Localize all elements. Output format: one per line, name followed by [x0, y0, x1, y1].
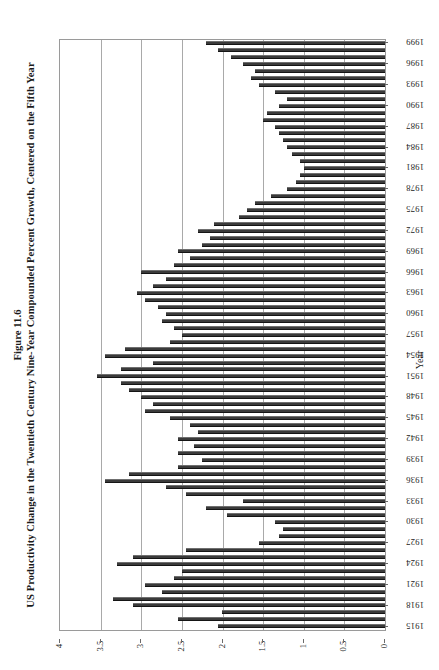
category-tick-mark [385, 251, 388, 252]
category-tick: 1972 [388, 225, 424, 235]
bar [121, 367, 385, 371]
category-tick: 1990 [388, 100, 424, 110]
category-tick: 1963 [388, 287, 424, 297]
category-tick: 1915 [388, 621, 424, 631]
bar [271, 194, 385, 198]
category-tick-label: 1969 [388, 246, 424, 256]
value-tick-mark [343, 639, 344, 643]
category-tick-mark [385, 459, 388, 460]
value-tick: 1.5 [250, 639, 274, 653]
bar [247, 208, 385, 212]
figure-title-rotated: Figure 11.6 US Productivity Change in th… [0, 0, 48, 670]
bar [178, 249, 385, 253]
category-tick-mark [385, 542, 388, 543]
category-tick: 1918 [388, 600, 424, 610]
category-tick: 1999 [388, 37, 424, 47]
bar [283, 138, 385, 142]
category-tick-mark [385, 480, 388, 481]
value-tick-label: 2.5 [174, 634, 188, 658]
bar [279, 131, 385, 135]
gridline [101, 40, 102, 630]
category-tick-label: 1918 [388, 600, 424, 610]
category-tick-label: 1978 [388, 183, 424, 193]
category-tick: 1924 [388, 558, 424, 568]
bar [279, 534, 385, 538]
category-tick-mark [385, 272, 388, 273]
category-tick-mark [385, 396, 388, 397]
category-tick-label: 1984 [388, 142, 424, 152]
category-tick: 1936 [388, 475, 424, 485]
category-tick-label: 1990 [388, 100, 424, 110]
value-tick-mark [262, 639, 263, 643]
bar [255, 69, 385, 73]
bar [174, 263, 385, 267]
category-tick-mark [385, 105, 388, 106]
category-tick: 1978 [388, 183, 424, 193]
bar [129, 472, 385, 476]
category-tick-label: 1966 [388, 267, 424, 277]
category-tick: 1975 [388, 204, 424, 214]
category-tick-label: 1939 [388, 454, 424, 464]
bar [170, 416, 385, 420]
value-tick-label: 4 [52, 634, 66, 658]
category-axis-title-text: Year [390, 343, 439, 377]
category-tick: 1984 [388, 142, 424, 152]
value-tick: 0.5 [331, 639, 355, 653]
category-tick-label: 1921 [388, 579, 424, 589]
bar [145, 298, 385, 302]
category-tick: 1981 [388, 162, 424, 172]
category-tick: 1939 [388, 454, 424, 464]
category-tick: 1933 [388, 496, 424, 506]
value-tick-label: 3.5 [93, 634, 107, 658]
bar [287, 97, 385, 101]
category-tick-mark [385, 355, 388, 356]
category-tick-mark [385, 126, 388, 127]
bar [182, 333, 385, 337]
bar [97, 374, 385, 378]
bar [145, 583, 385, 587]
category-tick-mark [385, 84, 388, 85]
bar [275, 125, 385, 129]
value-tick-mark [181, 639, 182, 643]
bar [166, 277, 385, 281]
category-tick-mark [385, 376, 388, 377]
bar [174, 326, 385, 330]
bar [304, 166, 385, 170]
figure-caption: US Productivity Change in the Twentieth … [24, 62, 38, 607]
bar [227, 513, 385, 517]
category-tick-mark [385, 584, 388, 585]
bar [202, 243, 385, 247]
chart-plot-area [59, 39, 386, 631]
bar [178, 465, 385, 469]
bar [275, 520, 385, 524]
category-tick-label: 1933 [388, 496, 424, 506]
bar [178, 617, 385, 621]
bar [259, 541, 385, 545]
bar [206, 506, 385, 510]
category-tick-label: 1924 [388, 558, 424, 568]
value-tick-mark [222, 639, 223, 643]
value-tick: 3.5 [88, 639, 112, 653]
category-tick-label: 1999 [388, 37, 424, 47]
bar [222, 610, 385, 614]
bar [279, 104, 385, 108]
figure-title-block: Figure 11.6 US Productivity Change in th… [0, 0, 48, 670]
bar [259, 83, 385, 87]
bar [263, 118, 385, 122]
bar [239, 215, 385, 219]
bar [300, 159, 385, 163]
bar [243, 499, 385, 503]
value-tick: 2.5 [169, 639, 193, 653]
bar [182, 569, 385, 573]
bar [186, 548, 385, 552]
category-tick-label: 1948 [388, 391, 424, 401]
value-tick-label: 1 [296, 634, 310, 658]
category-tick-label: 1936 [388, 475, 424, 485]
category-tick-mark [385, 626, 388, 627]
bar [292, 152, 385, 156]
bar [133, 555, 385, 559]
category-tick-label: 1930 [388, 516, 424, 526]
category-tick: 1945 [388, 412, 424, 422]
bar [198, 430, 385, 434]
category-tick-mark [385, 334, 388, 335]
